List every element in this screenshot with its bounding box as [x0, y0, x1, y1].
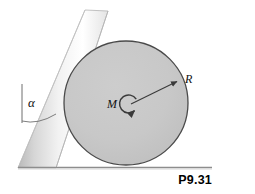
mass-label: M [106, 97, 118, 111]
angle-label: α [28, 95, 36, 110]
figure-number-label: P9.31 [178, 173, 212, 187]
physics-figure: α M R P9.31 [0, 0, 255, 194]
radius-label: R [184, 72, 193, 86]
cylinder [64, 41, 188, 165]
figure-canvas: α M R P9.31 [0, 0, 255, 194]
